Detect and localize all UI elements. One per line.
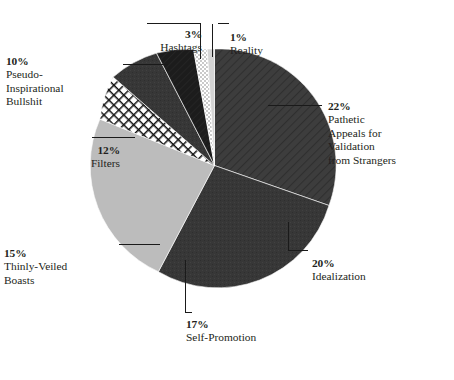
slice-name-pathetic: Pathetic Appeals for Validation from Str… bbox=[328, 113, 396, 166]
slice-percent-pathetic: 22% bbox=[328, 100, 350, 112]
slice-name-reality: Reality bbox=[230, 44, 263, 56]
slice-percent-hashtags: 3% bbox=[185, 28, 202, 40]
slice-percent-reality: 1% bbox=[230, 31, 247, 43]
slice-percent-idealization: 20% bbox=[312, 257, 334, 269]
slice-percent-thinly-veiled-boasts: 15% bbox=[4, 247, 26, 259]
slice-name-filters: Filters bbox=[91, 157, 120, 169]
slice-label-pseudo-inspirational: 10% Pseudo- Inspirational Bullshit bbox=[6, 41, 138, 109]
slice-label-idealization: 20% Idealization bbox=[312, 243, 452, 284]
pie-chart-figure: 3% Hashtags 1% Reality 10% Pseudo- Inspi… bbox=[0, 0, 454, 380]
slice-percent-pseudo-inspirational: 10% bbox=[6, 55, 28, 67]
slice-name-thinly-veiled-boasts: Thinly-Veiled Boasts bbox=[4, 260, 67, 286]
slice-label-reality: 1% Reality bbox=[230, 17, 350, 58]
slice-label-pathetic: 22% Pathetic Appeals for Validation from… bbox=[328, 86, 454, 168]
slice-label-self-promotion: 17% Self-Promotion bbox=[186, 304, 366, 345]
slice-name-pseudo-inspirational: Pseudo- Inspirational Bullshit bbox=[6, 68, 64, 107]
slice-name-hashtags: Hashtags bbox=[160, 41, 202, 53]
slice-percent-filters: 12% bbox=[98, 144, 120, 156]
slice-label-thinly-veiled-boasts: 15% Thinly-Veiled Boasts bbox=[4, 233, 138, 287]
slice-percent-self-promotion: 17% bbox=[186, 318, 208, 330]
slice-name-self-promotion: Self-Promotion bbox=[186, 331, 256, 343]
slice-name-idealization: Idealization bbox=[312, 270, 366, 282]
slice-label-filters: 12% Filters bbox=[4, 130, 120, 171]
